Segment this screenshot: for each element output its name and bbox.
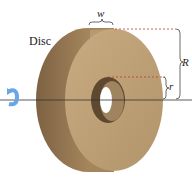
inner-radius-label: r: [169, 80, 173, 92]
width-label: w: [97, 7, 104, 19]
rotation-arrow-icon: [7, 88, 17, 104]
disc-diagram: [0, 0, 192, 177]
disc-label: Disc: [29, 34, 51, 49]
outer-radius-label: R: [182, 56, 189, 68]
width-brace: [89, 19, 113, 25]
